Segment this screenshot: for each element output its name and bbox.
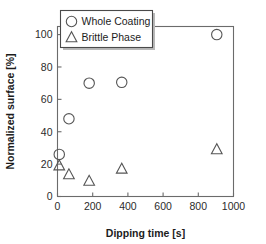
y-tick-label-80: 80: [41, 61, 53, 73]
plot-canvas: 02040608010002004006008001000Dipping tim…: [0, 0, 266, 244]
x-tick-label-800: 800: [190, 200, 208, 212]
y-tick-label-20: 20: [41, 158, 53, 170]
data-point-whole-coating-3: [117, 77, 127, 87]
data-point-brittle-phase-3: [116, 163, 127, 173]
data-point-whole-coating-0: [54, 149, 64, 159]
y-tick-label-40: 40: [41, 126, 53, 138]
x-tick-label-1000: 1000: [222, 200, 246, 212]
x-tick-label-200: 200: [84, 200, 102, 212]
axis-frame: [58, 27, 234, 197]
data-point-whole-coating-2: [84, 78, 94, 88]
y-tick-label-60: 60: [41, 93, 53, 105]
x-axis-title: Dipping time [s]: [106, 227, 185, 239]
data-point-whole-coating-4: [212, 29, 222, 39]
x-tick-label-400: 400: [119, 200, 137, 212]
y-tick-label-0: 0: [47, 190, 53, 202]
x-tick-label-600: 600: [154, 200, 172, 212]
scatter-chart-figure: 02040608010002004006008001000Dipping tim…: [0, 0, 266, 244]
legend-label-whole-coating: Whole Coating: [82, 15, 151, 27]
legend-label-brittle-phase: Brittle Phase: [82, 31, 142, 43]
data-point-whole-coating-1: [64, 114, 74, 124]
data-point-brittle-phase-2: [84, 175, 95, 185]
y-tick-label-100: 100: [35, 28, 53, 40]
data-point-brittle-phase-4: [211, 144, 222, 154]
y-axis-title: Normalized surface [%]: [4, 53, 16, 169]
x-tick-label-0: 0: [55, 200, 61, 212]
data-point-brittle-phase-0: [54, 160, 65, 170]
